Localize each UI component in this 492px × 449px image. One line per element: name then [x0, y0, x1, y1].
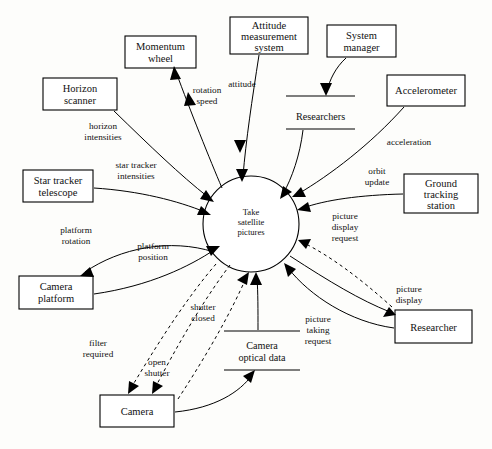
- flow-shutter-closed: [178, 272, 249, 399]
- entity-accelerometer[interactable]: Accelerometer: [387, 75, 465, 106]
- entity-label: Star tracker: [34, 175, 83, 186]
- label-orbit-update: orbit update: [365, 166, 390, 187]
- entity-star-tracker-telescope[interactable]: Star tracker telescope: [23, 170, 93, 202]
- svg-text:display: display: [396, 295, 423, 305]
- entity-label: tracking: [424, 189, 459, 200]
- label-picture-taking-request: picture taking request: [305, 314, 332, 346]
- entity-label: Ground: [425, 178, 458, 189]
- process-label: satellite: [238, 217, 265, 227]
- process-label: Take: [243, 207, 260, 217]
- entity-label: station: [427, 200, 456, 211]
- entity-label: Momentum: [136, 41, 185, 52]
- flow-star-tracker-intensities: [94, 188, 211, 215]
- label-horizon-intensities: horizon intensities: [84, 121, 122, 142]
- entity-researcher[interactable]: Researcher: [395, 310, 472, 343]
- svg-text:intensities: intensities: [84, 132, 122, 142]
- svg-text:shutter: shutter: [190, 302, 215, 312]
- flow-system-manager-to-researchers: [320, 58, 346, 96]
- entity-label: manager: [343, 42, 380, 53]
- entity-system-manager[interactable]: System manager: [327, 25, 396, 57]
- label-picture-display-request: picture display request: [332, 211, 359, 243]
- svg-text:rotation: rotation: [193, 85, 222, 95]
- store-label: Camera: [246, 340, 278, 351]
- label-platform-rotation: platform rotation: [60, 225, 92, 246]
- entity-label: Horizon: [63, 83, 98, 94]
- svg-text:picture: picture: [332, 211, 358, 221]
- label-shutter-closed: shutter closed: [190, 302, 215, 323]
- svg-text:speed: speed: [197, 96, 218, 106]
- svg-text:intensities: intensities: [117, 171, 155, 181]
- store-label: Researchers: [296, 111, 345, 122]
- store-camera-optical-data[interactable]: Camera optical data: [224, 331, 300, 370]
- flow-attitude: [234, 55, 259, 182]
- svg-text:attitude: attitude: [228, 79, 256, 89]
- entity-camera[interactable]: Camera: [100, 395, 174, 427]
- svg-text:request: request: [332, 233, 359, 243]
- svg-text:closed: closed: [191, 313, 215, 323]
- svg-text:request: request: [305, 336, 332, 346]
- entity-attitude-measurement-system[interactable]: Attitude measurement system: [230, 17, 308, 54]
- svg-text:picture: picture: [396, 284, 422, 294]
- label-attitude: attitude: [228, 79, 256, 89]
- entity-label: Accelerometer: [395, 85, 457, 96]
- label-platform-position: platform position: [137, 241, 169, 262]
- svg-text:shutter: shutter: [144, 368, 169, 378]
- entity-momentum-wheel[interactable]: Momentum wheel: [125, 36, 196, 68]
- label-filter-required: filter required: [83, 338, 114, 359]
- entity-label: Attitude: [252, 20, 287, 31]
- entity-label: system: [254, 42, 283, 53]
- store-label: optical data: [238, 352, 286, 363]
- svg-text:platform: platform: [60, 225, 92, 235]
- flow-picture-taking-request: [284, 263, 394, 328]
- svg-text:rotation: rotation: [62, 236, 91, 246]
- flow-orbit-update: [297, 194, 403, 212]
- svg-text:taking: taking: [307, 325, 330, 335]
- svg-text:display: display: [332, 222, 359, 232]
- process-label: pictures: [237, 227, 265, 237]
- label-rotation-speed: rotation speed: [193, 85, 222, 106]
- label-picture-display: picture display: [396, 284, 423, 305]
- svg-text:orbit: orbit: [368, 166, 386, 176]
- entity-camera-platform[interactable]: Camera platform: [19, 276, 93, 309]
- flow-camera-to-optical-data: [175, 370, 255, 412]
- entity-label: telescope: [38, 187, 77, 198]
- label-open-shutter: open shutter: [144, 357, 169, 378]
- dfd-canvas: Momentum wheel Horizon scanner Attitude …: [0, 0, 492, 449]
- flow-optical-data-to-process: [250, 272, 262, 330]
- svg-text:acceleration: acceleration: [387, 137, 432, 147]
- svg-text:platform: platform: [137, 241, 169, 251]
- svg-text:update: update: [365, 177, 390, 187]
- label-acceleration: acceleration: [387, 137, 432, 147]
- entity-ground-tracking-station[interactable]: Ground tracking station: [404, 174, 478, 213]
- entity-label: scanner: [64, 95, 97, 106]
- entity-label: Camera: [40, 281, 73, 292]
- svg-text:picture: picture: [305, 314, 331, 324]
- label-star-tracker-intensities: star tracker intensities: [115, 160, 156, 181]
- flow-picture-display-request: [298, 239, 392, 307]
- svg-text:horizon: horizon: [89, 121, 117, 131]
- entity-label: System: [346, 30, 377, 41]
- flow-horizon-intensities: [114, 111, 214, 202]
- entity-label: platform: [38, 293, 74, 304]
- entity-horizon-scanner[interactable]: Horizon scanner: [43, 78, 117, 110]
- entity-label: Camera: [121, 406, 154, 417]
- svg-text:star tracker: star tracker: [115, 160, 156, 170]
- svg-text:open: open: [148, 357, 166, 367]
- data-flow-diagram: Momentum wheel Horizon scanner Attitude …: [0, 0, 492, 449]
- svg-text:required: required: [83, 349, 114, 359]
- store-researchers[interactable]: Researchers: [286, 96, 355, 129]
- entity-label: wheel: [148, 53, 173, 64]
- svg-text:filter: filter: [89, 338, 107, 348]
- entity-label: Researcher: [410, 322, 457, 333]
- entity-label: measurement: [241, 31, 297, 42]
- svg-text:position: position: [138, 252, 168, 262]
